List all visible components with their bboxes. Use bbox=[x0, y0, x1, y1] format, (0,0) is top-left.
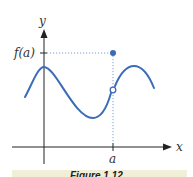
filled-point bbox=[110, 50, 116, 56]
y-axis-arrow-icon bbox=[41, 29, 48, 38]
a-label: a bbox=[109, 153, 116, 165]
fa-label: f(a) bbox=[14, 47, 35, 59]
open-point bbox=[110, 87, 116, 93]
figure-canvas: y x f(a) a Figure 1.12 bbox=[0, 0, 193, 177]
x-axis-arrow-icon bbox=[163, 144, 172, 151]
figure-caption: Figure 1.12 bbox=[70, 171, 123, 177]
x-axis-label: x bbox=[176, 141, 183, 153]
curve-right bbox=[115, 66, 154, 88]
y-axis-label: y bbox=[39, 15, 46, 27]
graph bbox=[0, 0, 193, 177]
curve-left bbox=[25, 67, 111, 118]
